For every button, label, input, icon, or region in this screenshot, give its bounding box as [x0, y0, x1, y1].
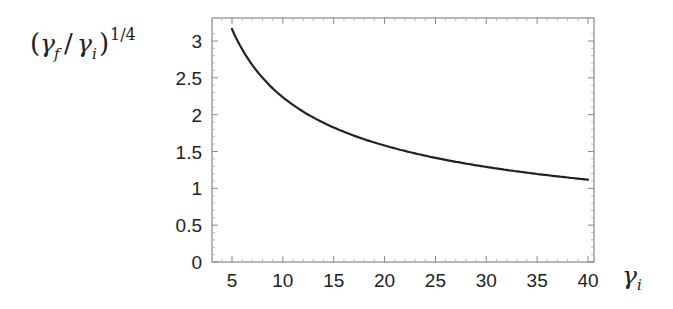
svg-text:): ) [99, 28, 109, 58]
y-tick-label: 3 [191, 31, 202, 52]
x-tick-label: 40 [577, 270, 598, 291]
y-axis: 00.511.522.53 [176, 31, 594, 273]
svg-text:γ: γ [77, 29, 92, 58]
y-tick-label: 2 [191, 105, 202, 126]
x-tick-label: 10 [272, 270, 293, 291]
data-curve [232, 29, 588, 180]
x-axis-label: γ i [622, 261, 642, 294]
x-axis: 510152025303540 [227, 18, 599, 291]
minor-ticks [212, 18, 594, 262]
x-tick-label: 15 [323, 270, 344, 291]
y-tick-label: 2.5 [176, 68, 202, 89]
y-tick-label: 0.5 [176, 215, 202, 236]
plot-frame [212, 18, 594, 262]
x-tick-label: 25 [425, 270, 446, 291]
svg-text:γ: γ [622, 261, 637, 290]
x-tick-label: 30 [476, 270, 497, 291]
svg-text:γ: γ [40, 29, 55, 58]
y-tick-label: 1 [191, 178, 202, 199]
chart: 00.511.522.53 510152025303540 ( γ f / γ … [0, 0, 673, 309]
x-tick-label: 35 [527, 270, 548, 291]
y-tick-label: 0 [191, 252, 202, 273]
svg-text:i: i [92, 45, 97, 63]
x-tick-label: 5 [227, 270, 238, 291]
y-tick-label: 1.5 [176, 142, 202, 163]
svg-text:(: ( [30, 28, 40, 58]
svg-text:/: / [64, 28, 73, 58]
x-tick-label: 20 [374, 270, 395, 291]
svg-text:1/4: 1/4 [110, 25, 136, 44]
svg-text:i: i [637, 276, 642, 294]
svg-text:f: f [53, 45, 62, 63]
y-axis-label: ( γ f / γ i ) 1/4 [30, 25, 136, 63]
